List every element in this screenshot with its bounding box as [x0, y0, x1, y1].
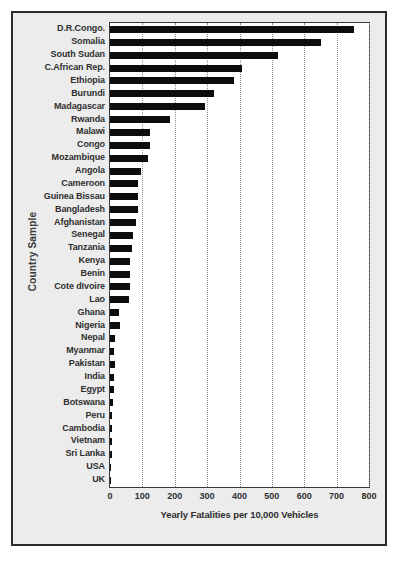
- bar-row: [110, 242, 369, 255]
- bar: [110, 168, 141, 175]
- x-tick-label: 200: [167, 491, 182, 501]
- bar-row: [110, 255, 369, 268]
- x-tick-label: 500: [264, 491, 279, 501]
- bar: [110, 193, 138, 200]
- y-tick-label: D.R.Congo.: [21, 22, 107, 35]
- gridline-800: [369, 23, 370, 487]
- bar-row: [110, 268, 369, 281]
- y-tick-label: Ghana: [21, 305, 107, 318]
- bar: [110, 412, 112, 419]
- bar: [110, 245, 132, 252]
- bar: [110, 438, 112, 445]
- y-tick-label: Botswana: [21, 395, 107, 408]
- bar-row: [110, 345, 369, 358]
- y-tick-label: UK: [21, 473, 107, 486]
- y-axis-tick-labels: D.R.Congo.SomaliaSouth SudanC.African Re…: [21, 22, 107, 488]
- y-tick-label: Egypt: [21, 383, 107, 396]
- bar-row: [110, 409, 369, 422]
- bar: [110, 309, 119, 316]
- y-tick-label: Myanmar: [21, 344, 107, 357]
- bar-row: [110, 49, 369, 62]
- bar-row: [110, 178, 369, 191]
- bar: [110, 322, 120, 329]
- bar-row: [110, 461, 369, 474]
- bar: [110, 271, 130, 278]
- bar-row: [110, 281, 369, 294]
- bar-row: [110, 306, 369, 319]
- bar: [110, 155, 148, 162]
- bar-row: [110, 332, 369, 345]
- y-tick-label: USA: [21, 460, 107, 473]
- y-tick-label: Angola: [21, 164, 107, 177]
- bar: [110, 26, 354, 33]
- y-tick-label: Bangladesh: [21, 202, 107, 215]
- bar-row: [110, 435, 369, 448]
- y-tick-label: Cambodia: [21, 421, 107, 434]
- bar-row: [110, 139, 369, 152]
- bar: [110, 335, 115, 342]
- y-tick-label: Benin: [21, 267, 107, 280]
- bar-row: [110, 319, 369, 332]
- y-tick-label: India: [21, 370, 107, 383]
- y-tick-label: Guinea Bissau: [21, 189, 107, 202]
- y-tick-label: Nigeria: [21, 318, 107, 331]
- bar-row: [110, 448, 369, 461]
- y-tick-label: Rwanda: [21, 112, 107, 125]
- bar: [110, 142, 150, 149]
- bar: [110, 180, 138, 187]
- bar-row: [110, 384, 369, 397]
- bar: [110, 296, 129, 303]
- bar-row: [110, 216, 369, 229]
- y-tick-label: C.African Rep.: [21, 61, 107, 74]
- y-tick-label: Peru: [21, 408, 107, 421]
- y-tick-label: Senegal: [21, 228, 107, 241]
- bar: [110, 65, 242, 72]
- y-tick-label: Nepal: [21, 331, 107, 344]
- y-tick-label: Tanzania: [21, 241, 107, 254]
- y-tick-label: Afghanistan: [21, 215, 107, 228]
- bar-row: [110, 62, 369, 75]
- bar: [110, 258, 130, 265]
- bar-row: [110, 396, 369, 409]
- y-tick-label: Mozambique: [21, 151, 107, 164]
- bar: [110, 451, 112, 458]
- bar: [110, 39, 321, 46]
- bar: [110, 116, 170, 123]
- x-tick-label: 100: [135, 491, 150, 501]
- bar: [110, 464, 111, 471]
- figure-frame: Country Sample D.R.Congo.SomaliaSouth Su…: [11, 11, 387, 546]
- x-tick-label: 300: [200, 491, 215, 501]
- bar-row: [110, 152, 369, 165]
- bar-row: [110, 229, 369, 242]
- y-tick-label: Somalia: [21, 35, 107, 48]
- bar-row: [110, 422, 369, 435]
- bar-row: [110, 113, 369, 126]
- bar-row: [110, 36, 369, 49]
- bar: [110, 374, 114, 381]
- y-tick-label: Congo: [21, 138, 107, 151]
- y-tick-label: Lao: [21, 292, 107, 305]
- bar: [110, 425, 112, 432]
- x-tick-label: 700: [329, 491, 344, 501]
- bar-row: [110, 75, 369, 88]
- bar: [110, 348, 114, 355]
- y-tick-label: Cameroon: [21, 177, 107, 190]
- bar-series: [110, 23, 369, 487]
- y-tick-label: Kenya: [21, 254, 107, 267]
- x-tick-label: 800: [361, 491, 376, 501]
- bar: [110, 386, 114, 393]
- bar: [110, 206, 138, 213]
- y-tick-label: Madagascar: [21, 99, 107, 112]
- bar-row: [110, 87, 369, 100]
- x-tick-label: 600: [297, 491, 312, 501]
- bar: [110, 129, 150, 136]
- bar: [110, 361, 115, 368]
- bar: [110, 103, 205, 110]
- y-tick-label: Pakistan: [21, 357, 107, 370]
- bar-row: [110, 190, 369, 203]
- y-tick-label: Cote dIvoire: [21, 280, 107, 293]
- bar-row: [110, 126, 369, 139]
- y-tick-label: Vietnam: [21, 434, 107, 447]
- bar-row: [110, 165, 369, 178]
- x-axis-tick-labels: 0100200300400500600700800: [109, 491, 370, 505]
